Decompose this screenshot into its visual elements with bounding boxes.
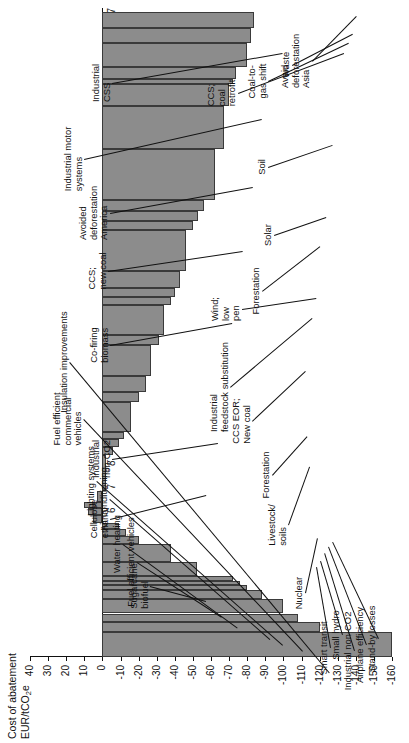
bar[interactable] [102, 211, 198, 220]
annotation-label-solar: Solar [263, 224, 274, 246]
annotation-label-soil: Soil [257, 159, 268, 175]
annotation-label-ccs-eor-new-coal: CCS EOR; New coal [231, 398, 252, 443]
bar[interactable] [102, 305, 164, 334]
annotation-label-industrial-non-co2-b: Industrial non-CO2 [91, 440, 112, 478]
bar[interactable] [102, 12, 254, 28]
annotation-label-industrial-css: Industrial CSS [91, 64, 112, 102]
annotation-label-ccs-new-coal: CCS; new coal [87, 252, 108, 289]
annotation-label-wind-low-pen: Wind; low pen [210, 297, 242, 321]
annotation-label-livestock-soils: Livestock/ soils [267, 504, 288, 546]
annotation-label-airplane-efficiency: Airplane efficiency [355, 607, 366, 683]
abatement-cost-curve-figure: Cost of abatement EUR/tCO2e 403020100-10… [0, 0, 409, 743]
bar[interactable] [102, 271, 180, 287]
bar[interactable] [102, 432, 124, 439]
annotation-label-ccs-coal-retrofit: CCS; coal retrofit [206, 80, 238, 107]
bar[interactable] [102, 106, 223, 150]
annotation-label-water-heating: Water heating [112, 515, 123, 573]
annotation-label-nuclear: Nuclear [294, 577, 305, 609]
annotation-label-industrial-motor-systems: Industrial motor systems [63, 127, 84, 192]
annotation-label-avoid-deforestation-asia: Avoid deforestation Asia [280, 34, 312, 88]
annotation-label-small-hydro: Small hydro [331, 610, 342, 660]
annotation-label-fuel-efficient-vehicles: Fuel efficient vehicles [126, 517, 137, 606]
annotation-label-cellulose-ethanol: Cellulose ethanol [89, 500, 110, 539]
annotation-label-avoided-deforestation-america: Avoided deforestation America [78, 186, 110, 240]
annotation-label-coal-to-gas-shift: Coal-to- gas shift [247, 64, 268, 99]
bar[interactable] [102, 149, 214, 200]
annotation-label-industrial-feedstock: Industrial feedstock substitution [209, 342, 230, 432]
annotation-label-co-firing-biomass: Co-firing biomass [89, 327, 110, 362]
bar[interactable] [102, 297, 171, 305]
bar[interactable] [102, 392, 138, 401]
bar[interactable] [102, 221, 193, 230]
annotation-label-insulation-improvements: Insulation improvements [59, 311, 70, 413]
figure-rotation-wrapper: Cost of abatement EUR/tCO2e 403020100-10… [0, 0, 409, 743]
bar[interactable] [102, 376, 145, 392]
annotation-label-standby-losses: Stand-by losses [367, 606, 378, 673]
bar[interactable] [102, 28, 250, 43]
annotation-label-forestation-mid: Forestation [251, 268, 262, 315]
annotation-label-forestation-low: Forestation [261, 452, 272, 499]
bar[interactable] [102, 288, 174, 297]
plot-area: Cost of abatement EUR/tCO2e 403020100-10… [0, 0, 409, 743]
annotation-label-industrial-non-co2: Industrial non-CO2 [343, 612, 354, 691]
